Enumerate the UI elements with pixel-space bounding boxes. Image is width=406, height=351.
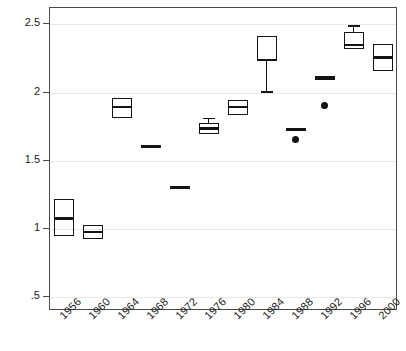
box-median-line	[344, 44, 364, 46]
whisker-cap-upper	[203, 118, 215, 120]
box-median-bar	[141, 145, 161, 148]
whisker-lower	[266, 60, 267, 93]
whisker-cap-lower	[261, 91, 273, 93]
gridline-y	[50, 24, 396, 25]
y-tick-mark	[43, 92, 49, 93]
box-rect	[344, 32, 364, 50]
box-rect	[112, 98, 132, 117]
plot-area	[49, 7, 397, 310]
y-tick-label: 1	[2, 222, 40, 233]
outlier-point	[292, 136, 299, 143]
box-rect	[257, 36, 277, 61]
boxplot-figure: Stratification .511.522.5195619601964196…	[0, 0, 406, 351]
box-median-line	[373, 56, 393, 58]
box-median-line	[54, 217, 74, 219]
box-median-bar	[170, 186, 190, 189]
box-median-line	[286, 129, 306, 131]
y-tick-label: 2	[2, 86, 40, 97]
whisker-cap-upper	[348, 25, 360, 27]
y-tick-mark	[43, 160, 49, 161]
gridline-y	[50, 161, 396, 162]
y-tick-label: .5	[2, 290, 40, 301]
y-tick-label: 2.5	[2, 17, 40, 28]
y-tick-label: 1.5	[2, 154, 40, 165]
y-tick-mark	[43, 23, 49, 24]
box-median-line	[83, 231, 103, 233]
y-tick-mark	[43, 228, 49, 229]
gridline-y	[50, 93, 396, 94]
box-median-line	[199, 127, 219, 129]
box-median-line	[228, 106, 248, 108]
outlier-point	[321, 102, 328, 109]
box-median-bar	[315, 76, 335, 79]
box-median-line	[112, 106, 132, 108]
y-tick-mark	[43, 296, 49, 297]
